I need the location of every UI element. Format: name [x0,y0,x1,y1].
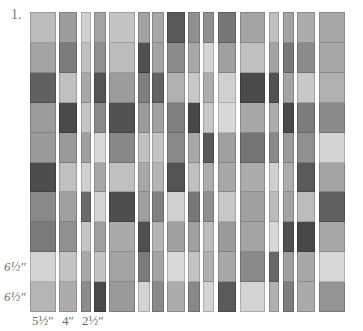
fabric-block [188,133,200,163]
fabric-strip-8 [167,12,185,312]
fabric-block [240,163,265,193]
fabric-block [152,222,164,252]
fabric-block [240,43,265,73]
fabric-block [109,222,135,252]
fabric-block [319,103,345,133]
fabric-strip-10 [203,12,214,312]
fabric-block [138,252,150,282]
fabric-strip-13 [269,12,279,312]
fabric-block [203,163,214,193]
col-width-label-3: 2½″ [82,313,104,329]
fabric-block [30,192,56,222]
fabric-block [283,282,294,312]
fabric-block [138,192,150,222]
fabric-block [30,12,56,43]
fabric-block [109,282,135,312]
fabric-strip-14 [283,12,294,312]
fabric-block [269,103,279,133]
fabric-block [319,73,345,103]
fabric-block [319,192,345,222]
fabric-block [283,252,294,282]
col-width-label-1: 5½″ [32,313,54,329]
fabric-block [269,133,279,163]
fabric-block [81,43,91,73]
fabric-strip-5 [109,12,135,312]
fabric-block [269,73,279,103]
fabric-block [203,192,214,222]
fabric-block [283,12,294,43]
fabric-block [109,73,135,103]
fabric-block [59,43,77,73]
fabric-block [59,12,77,43]
fabric-block [30,73,56,103]
fabric-block [81,222,91,252]
fabric-block [152,73,164,103]
fabric-block [297,73,315,103]
fabric-block [167,73,185,103]
fabric-block [218,192,236,222]
fabric-block [94,103,106,133]
fabric-block [240,192,265,222]
fabric-block [218,222,236,252]
fabric-block [240,222,265,252]
fabric-block [319,252,345,282]
fabric-block [81,282,91,312]
fabric-block [188,222,200,252]
fabric-block [81,73,91,103]
fabric-block [283,103,294,133]
fabric-block [94,222,106,252]
fabric-block [59,222,77,252]
fabric-block [30,103,56,133]
fabric-block [138,282,150,312]
fabric-block [94,12,106,43]
fabric-block [319,163,345,193]
fabric-block [297,252,315,282]
fabric-block [109,252,135,282]
fabric-block [283,133,294,163]
fabric-strip-11 [218,12,236,312]
fabric-block [203,103,214,133]
fabric-block [297,43,315,73]
fabric-block [218,43,236,73]
fabric-block [167,103,185,133]
figure-number: 1. [11,7,22,23]
fabric-block [59,192,77,222]
fabric-strip-15 [297,12,315,312]
fabric-block [167,163,185,193]
fabric-block [167,192,185,222]
fabric-block [283,43,294,73]
row-height-label-9: 6½″ [4,259,26,275]
fabric-block [81,133,91,163]
fabric-block [188,73,200,103]
fabric-block [203,282,214,312]
fabric-block [297,282,315,312]
fabric-strip-12 [240,12,265,312]
fabric-block [81,12,91,43]
fabric-block [138,133,150,163]
fabric-block [59,282,77,312]
fabric-block [94,163,106,193]
fabric-block [59,133,77,163]
fabric-block [167,12,185,43]
fabric-block [297,12,315,43]
fabric-block [94,133,106,163]
fabric-block [218,252,236,282]
fabric-block [94,73,106,103]
fabric-block [109,43,135,73]
fabric-block [152,163,164,193]
fabric-block [188,282,200,312]
fabric-block [283,163,294,193]
fabric-strip-6 [138,12,150,312]
fabric-strip-9 [188,12,200,312]
fabric-block [240,282,265,312]
fabric-block [167,282,185,312]
fabric-block [59,73,77,103]
fabric-block [59,252,77,282]
fabric-block [94,252,106,282]
fabric-block [319,282,345,312]
fabric-block [138,222,150,252]
fabric-block [94,192,106,222]
fabric-block [283,73,294,103]
fabric-block [30,133,56,163]
fabric-strip-2 [59,12,77,312]
